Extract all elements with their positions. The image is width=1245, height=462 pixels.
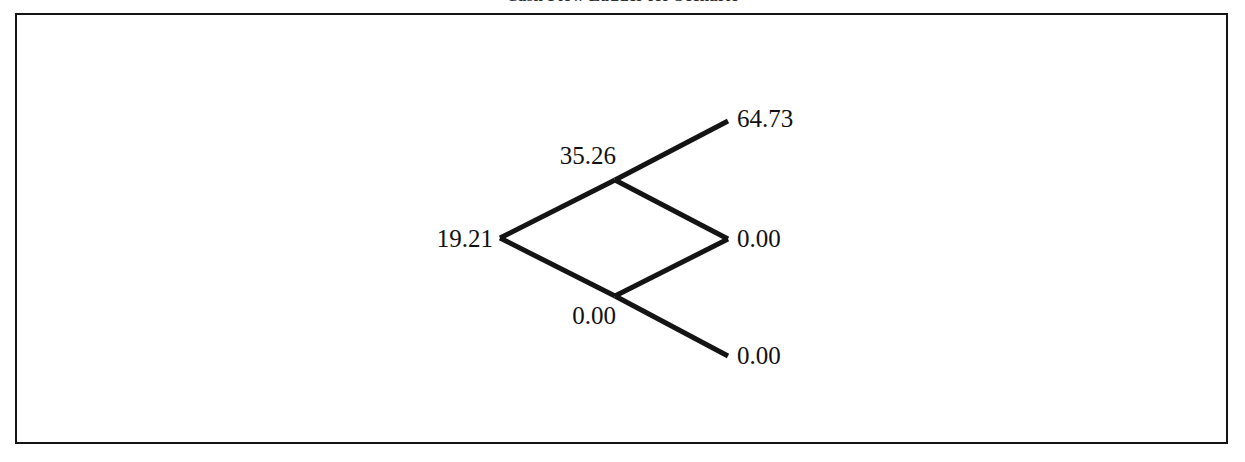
node-label-up-up: 64.73 <box>737 106 793 131</box>
figure-border-frame <box>15 13 1228 444</box>
figure-title: Cash Flow Ladder for Scenario <box>0 0 1245 5</box>
node-label-down: 0.00 <box>538 303 616 328</box>
node-label-mid: 0.00 <box>737 226 781 251</box>
node-label-up: 35.26 <box>538 143 616 168</box>
node-label-down-down: 0.00 <box>737 343 781 368</box>
figure-root: Cash Flow Ladder for Scenario 19.21 35.2… <box>0 0 1245 462</box>
node-label-root: 19.21 <box>415 226 493 251</box>
